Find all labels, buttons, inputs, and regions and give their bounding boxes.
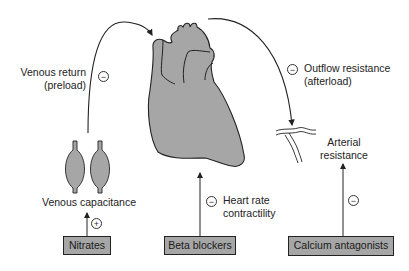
contractility-text: contractility [223,207,276,220]
artery-icon [276,128,316,163]
outflow-resistance-text: Outflow resistance [304,62,390,75]
heart-icon [148,23,244,166]
arterial-text: Arterial [316,136,372,149]
resistance-text: resistance [316,149,372,162]
venous-return-sign: − [98,71,109,82]
outflow-resistance-sign: − [287,64,298,75]
heart-rate-sign: − [206,196,217,207]
heart-rate-text: Heart rate [223,194,276,207]
beta-blockers-box[interactable]: Beta blockers [164,236,236,255]
outflow-resistance-label: Outflow resistance (afterload) [304,62,390,88]
venous-capacitance-sign: + [91,218,102,229]
nitrates-box[interactable]: Nitrates [63,236,111,255]
venous-capacitance-label: Venous capacitance [42,196,136,209]
arterial-resistance-sign: − [348,195,359,206]
venous-return-text: Venous return [16,66,86,79]
preload-text: (preload) [16,79,86,92]
venous-return-label: Venous return (preload) [16,66,86,92]
arterial-resistance-label: Arterial resistance [316,136,372,162]
afterload-text: (afterload) [304,75,390,88]
heart-rate-label: Heart rate contractility [223,194,276,220]
calcium-antagonists-box[interactable]: Calcium antagonists [288,236,394,256]
vein-icon [66,141,110,193]
